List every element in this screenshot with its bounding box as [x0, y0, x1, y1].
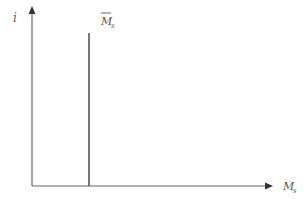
- y-axis-label: i: [13, 11, 17, 25]
- y-axis-arrow-icon: [29, 6, 36, 14]
- money-supply-diagram: i M s M s: [0, 0, 308, 199]
- x-axis-arrow-icon: [265, 183, 273, 190]
- curve-label-sub: s: [111, 22, 115, 30]
- curve-label: M s: [100, 13, 115, 30]
- x-axis: [32, 183, 273, 190]
- x-axis-label: M s: [282, 180, 297, 195]
- x-axis-label-sub: s: [293, 187, 297, 195]
- y-axis: [29, 6, 36, 186]
